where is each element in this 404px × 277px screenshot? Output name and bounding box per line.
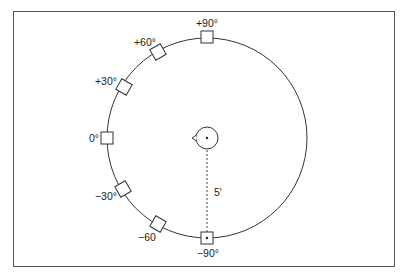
speaker-marker: −90° — [197, 232, 219, 259]
angle-label: 0° — [89, 132, 99, 144]
angle-label: −30° — [95, 190, 117, 202]
speaker-layout-diagram: 5' +90°+60°+30°0°−30°−60−90° — [0, 0, 404, 277]
speaker-marker: 0° — [89, 132, 113, 144]
speaker-marker: +60° — [134, 36, 166, 60]
angle-label: +30° — [95, 75, 117, 87]
speaker-marker: +90° — [196, 17, 218, 43]
angle-label: +90° — [196, 17, 218, 29]
angle-label: −60 — [138, 231, 156, 243]
nose-icon — [192, 135, 197, 141]
angle-label: −90° — [197, 247, 219, 259]
speaker-box-icon — [115, 181, 131, 197]
speaker-marker: −60 — [138, 216, 166, 243]
speaker-marker: −30° — [95, 181, 131, 202]
angle-label: +60° — [134, 36, 156, 48]
speaker-box-icon — [101, 132, 113, 144]
distance-label: 5' — [214, 186, 222, 198]
speaker-box-icon — [201, 31, 213, 43]
listener-head-icon — [192, 127, 218, 149]
speaker-box-icon — [150, 216, 166, 232]
